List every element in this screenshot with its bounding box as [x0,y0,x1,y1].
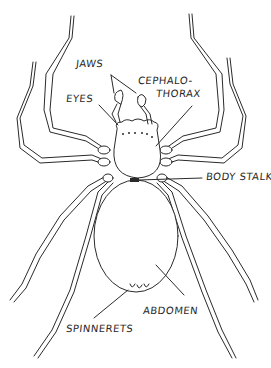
label-spinnerets: SPINNERETS [65,323,133,334]
leg-left-3 [10,176,108,302]
label-cephalothorax-line2: THORAX [155,88,201,99]
label-abdomen: ABDOMEN [142,305,198,316]
body-stalk-shape [130,178,139,182]
spider-diagram [0,0,271,368]
leg-left-1 [44,16,104,152]
jaws-shape [112,90,152,124]
label-eyes: EYES [65,93,93,104]
label-cephalothorax-line1: CEPHALO- [137,75,193,86]
label-jaws: JAWS [75,58,103,69]
leg-right-2 [166,58,246,164]
cephalothorax-shape [114,119,161,178]
leg-left-2 [17,62,104,164]
label-body-stalk: BODY STALK [205,171,271,182]
